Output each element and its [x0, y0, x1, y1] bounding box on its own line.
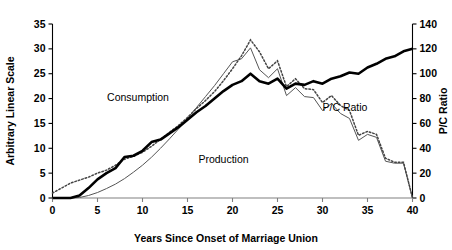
line-chart: 05101520253035 Arbitrary Linear Scale 02…: [0, 0, 452, 250]
annotation-production: Production: [198, 153, 248, 165]
y-axis-left-tick-label: 35: [34, 18, 46, 30]
y-axis-left-tick-label: 0: [40, 192, 46, 204]
x-axis: 0510152025303540 Years Since Onset of Ma…: [50, 198, 419, 244]
x-axis-tick-label: 25: [272, 204, 284, 216]
y-axis-left-tick-label: 15: [34, 117, 46, 129]
x-axis-tick-labels: 0510152025303540: [50, 204, 419, 216]
x-axis-tick-label: 5: [95, 204, 101, 216]
y-axis-right-tick-label: 40: [420, 142, 432, 154]
y-axis-right-tick-label: 20: [420, 167, 432, 179]
x-axis-tick-label: 15: [182, 204, 194, 216]
x-axis-tick-label: 10: [137, 204, 149, 216]
y-axis-left-title: Arbitrary Linear Scale: [4, 56, 16, 165]
y-axis-right-tick-labels: 020406080100120140: [420, 18, 438, 204]
plot-series: [53, 40, 413, 198]
y-axis-left-tick-label: 10: [34, 142, 46, 154]
x-axis-tick-label: 20: [227, 204, 239, 216]
y-axis-right-tick-label: 120: [420, 42, 438, 54]
series-line-production: [53, 48, 413, 198]
y-axis-left-tick-label: 20: [34, 92, 46, 104]
y-axis-left-tick-label: 5: [40, 167, 46, 179]
y-axis-right-tick-label: 140: [420, 18, 438, 30]
y-axis-right: 020406080100120140 P/C Ratio: [413, 18, 450, 204]
y-axis-left: 05101520253035 Arbitrary Linear Scale: [4, 18, 53, 204]
y-axis-left-tick-label: 25: [34, 67, 46, 79]
y-axis-right-ticks: [413, 24, 417, 198]
y-axis-left-tick-labels: 05101520253035: [34, 18, 46, 204]
x-axis-title: Years Since Onset of Marriage Union: [134, 232, 318, 244]
y-axis-left-tick-label: 30: [34, 42, 46, 54]
series-annotations: ConsumptionProductionP/C Ratio: [107, 91, 368, 165]
y-axis-right-tick-label: 80: [420, 92, 432, 104]
y-axis-left-ticks: [49, 24, 53, 198]
series-line-pc-ratio: [53, 49, 413, 198]
y-axis-right-tick-label: 100: [420, 67, 438, 79]
annotation-p-c-ratio: P/C Ratio: [323, 101, 368, 113]
y-axis-right-tick-label: 60: [420, 117, 432, 129]
x-axis-ticks: [53, 198, 413, 202]
annotation-consumption: Consumption: [107, 91, 169, 103]
chart-container: 05101520253035 Arbitrary Linear Scale 02…: [0, 0, 452, 250]
x-axis-tick-label: 30: [317, 204, 329, 216]
y-axis-right-title: P/C Ratio: [437, 88, 449, 135]
x-axis-tick-label: 35: [362, 204, 374, 216]
y-axis-right-tick-label: 0: [420, 192, 426, 204]
x-axis-tick-label: 40: [407, 204, 419, 216]
x-axis-tick-label: 0: [50, 204, 56, 216]
